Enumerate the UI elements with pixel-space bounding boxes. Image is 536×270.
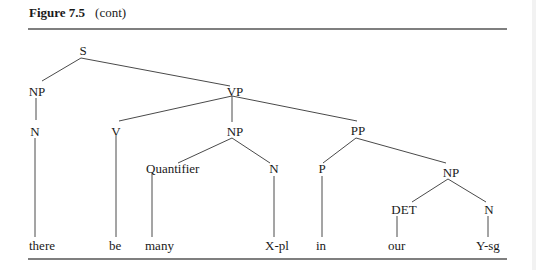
edge-vp-v [119, 96, 232, 121]
edge-np-n [232, 138, 270, 163]
node-n-object: N [269, 161, 279, 176]
edge-s-np [42, 58, 81, 81]
leaf-in: in [316, 238, 327, 253]
node-n-pp: N [484, 202, 494, 217]
node-np-object: NP [227, 124, 244, 139]
node-quantifier: Quantifier [146, 161, 200, 176]
edge-pp-p [323, 138, 356, 163]
edge-np-det [412, 179, 448, 202]
node-pp: PP [351, 123, 365, 138]
node-s: S [79, 43, 86, 58]
node-np-pp: NP [443, 165, 460, 180]
node-v: V [111, 124, 121, 139]
leaf-y-sg: Y-sg [476, 238, 500, 253]
edge-np-n [448, 179, 486, 202]
leaf-be: be [109, 238, 122, 253]
leaf-x-pl: X-pl [265, 238, 289, 253]
page-edge-shadow [532, 0, 536, 270]
leaf-our: our [388, 238, 406, 253]
node-det: DET [391, 202, 416, 217]
tree-nodes: S NP VP N V NP PP Quantifier N P NP DET … [29, 43, 495, 217]
tree-edges [35, 58, 488, 237]
node-n-subject: N [30, 124, 40, 139]
edge-np-quantifier [178, 138, 232, 163]
edge-s-vp [81, 58, 230, 86]
syntax-tree: S NP VP N V NP PP Quantifier N P NP DET … [0, 0, 536, 270]
edge-pp-np [356, 138, 446, 163]
node-vp: VP [227, 84, 244, 99]
tree-leaves: there be many X-pl in our Y-sg [29, 238, 500, 253]
leaf-there: there [29, 238, 55, 253]
edge-vp-pp [232, 96, 357, 121]
node-p: P [318, 161, 325, 176]
node-np-subject: NP [29, 84, 46, 99]
leaf-many: many [145, 238, 174, 253]
